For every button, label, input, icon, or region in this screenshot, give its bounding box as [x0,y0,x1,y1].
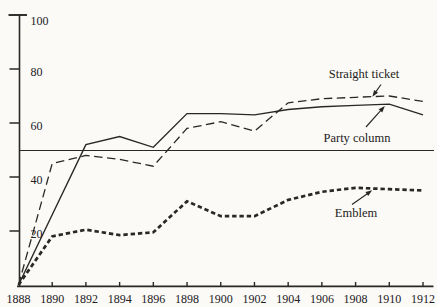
x-tick-label-1894: 1894 [108,292,132,306]
x-tick-label-1912: 1912 [411,292,435,306]
x-tick-label-1890: 1890 [40,292,64,306]
annotation-arrow-party-column [366,110,381,127]
ballot-reform-chart-figure: 2040608010018881890189218941896189819001… [0,0,437,307]
straight-ticket-line [19,96,424,285]
x-tick-label-1892: 1892 [74,292,98,306]
x-tick-label-1910: 1910 [377,292,401,306]
x-tick-label-1904: 1904 [276,292,300,306]
annotation-arrowhead-emblem [365,190,372,196]
annotation-arrow-emblem [352,193,368,204]
y-tick-label-60: 60 [31,119,43,133]
y-tick-label-80: 80 [31,65,43,79]
x-tick-label-1900: 1900 [209,292,233,306]
x-tick-label-1908: 1908 [344,292,368,306]
x-tick-label-1898: 1898 [175,292,199,306]
y-tick-label-100: 100 [31,14,49,28]
annotation-party-column: Party column [323,131,391,145]
annotation-straight-ticket: Straight ticket [329,67,400,81]
annotation-emblem: Emblem [335,206,378,220]
x-tick-label-1896: 1896 [141,292,165,306]
y-tick-label-40: 40 [31,173,43,187]
x-tick-label-1906: 1906 [310,292,334,306]
chart-svg: 2040608010018881890189218941896189819001… [0,0,437,307]
x-tick-label-1902: 1902 [242,292,266,306]
emblem-line [19,188,424,285]
annotation-arrowhead-straight-ticket [372,90,378,97]
x-tick-label-1888: 1888 [7,292,31,306]
